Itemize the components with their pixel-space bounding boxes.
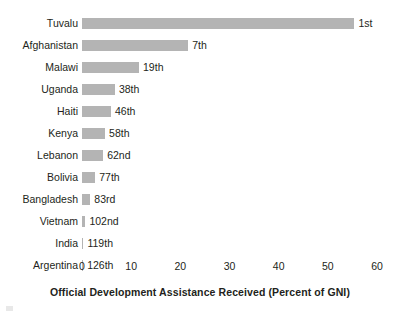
- bar-afghanistan: [82, 40, 188, 51]
- bar-row: Vietnam102nd: [0, 210, 400, 232]
- bar-row: Bangladesh83rd: [0, 188, 400, 210]
- bar-row: Malawi19th: [0, 56, 400, 78]
- x-axis-title: Official Development Assistance Received…: [0, 286, 400, 298]
- x-tick-label: 10: [125, 260, 137, 272]
- x-axis: 0102030405060: [0, 260, 400, 280]
- category-label-bolivia: Bolivia: [0, 172, 78, 183]
- category-label-bangladesh: Bangladesh: [0, 194, 78, 205]
- bar-row: Tuvalu1st: [0, 12, 400, 34]
- bar-chart: Tuvalu1stAfghanistan7thMalawi19thUganda3…: [0, 0, 400, 315]
- bar-value-label: 58th: [109, 128, 129, 139]
- bar-group: 62nd: [82, 150, 131, 161]
- x-tick-label: 0: [79, 260, 85, 272]
- bar-malawi: [82, 62, 139, 73]
- bar-value-label: 119th: [87, 238, 113, 249]
- x-tick-label: 60: [371, 260, 383, 272]
- bar-value-label: 7th: [192, 40, 207, 51]
- category-label-malawi: Malawi: [0, 62, 78, 73]
- bar-group: 46th: [82, 106, 135, 117]
- bar-row: Kenya58th: [0, 122, 400, 144]
- bar-group: 1st: [82, 18, 372, 29]
- bar-lebanon: [82, 150, 103, 161]
- bar-row: Lebanon62nd: [0, 144, 400, 166]
- bar-value-label: 19th: [143, 62, 163, 73]
- bar-group: 38th: [82, 84, 139, 95]
- bar-group: 7th: [82, 40, 207, 51]
- x-tick-label: 40: [273, 260, 285, 272]
- bar-vietnam: [82, 216, 85, 227]
- bar-kenya: [82, 128, 105, 139]
- corner-mark: [6, 306, 13, 311]
- bar-value-label: 62nd: [107, 150, 130, 161]
- bar-value-label: 46th: [115, 106, 135, 117]
- x-tick-label: 50: [322, 260, 334, 272]
- category-label-tuvalu: Tuvalu: [0, 18, 78, 29]
- bar-value-label: 83rd: [94, 194, 115, 205]
- bar-value-label: 77th: [99, 172, 119, 183]
- bar-uganda: [82, 84, 115, 95]
- bar-haiti: [82, 106, 111, 117]
- bar-tuvalu: [82, 18, 354, 29]
- bar-india: [82, 238, 83, 249]
- bar-group: 119th: [82, 238, 113, 249]
- bar-row: Bolivia77th: [0, 166, 400, 188]
- bar-row: Uganda38th: [0, 78, 400, 100]
- bar-group: 102nd: [82, 216, 119, 227]
- bar-bangladesh: [82, 194, 90, 205]
- bar-row: Afghanistan7th: [0, 34, 400, 56]
- bar-value-label: 38th: [119, 84, 139, 95]
- category-label-afghanistan: Afghanistan: [0, 40, 78, 51]
- bar-row: Haiti46th: [0, 100, 400, 122]
- category-label-india: India: [0, 238, 78, 249]
- category-label-uganda: Uganda: [0, 84, 78, 95]
- bar-group: 77th: [82, 172, 120, 183]
- bar-group: 83rd: [82, 194, 115, 205]
- bar-value-label: 1st: [358, 18, 372, 29]
- x-tick-label: 30: [224, 260, 236, 272]
- bar-group: 19th: [82, 62, 163, 73]
- bar-group: 58th: [82, 128, 130, 139]
- category-label-kenya: Kenya: [0, 128, 78, 139]
- category-label-vietnam: Vietnam: [0, 216, 78, 227]
- bar-row: India119th: [0, 232, 400, 254]
- category-label-lebanon: Lebanon: [0, 150, 78, 161]
- x-tick-label: 20: [174, 260, 186, 272]
- category-label-haiti: Haiti: [0, 106, 78, 117]
- bar-bolivia: [82, 172, 95, 183]
- bar-value-label: 102nd: [89, 216, 118, 227]
- plot-area: Tuvalu1stAfghanistan7thMalawi19thUganda3…: [0, 0, 400, 258]
